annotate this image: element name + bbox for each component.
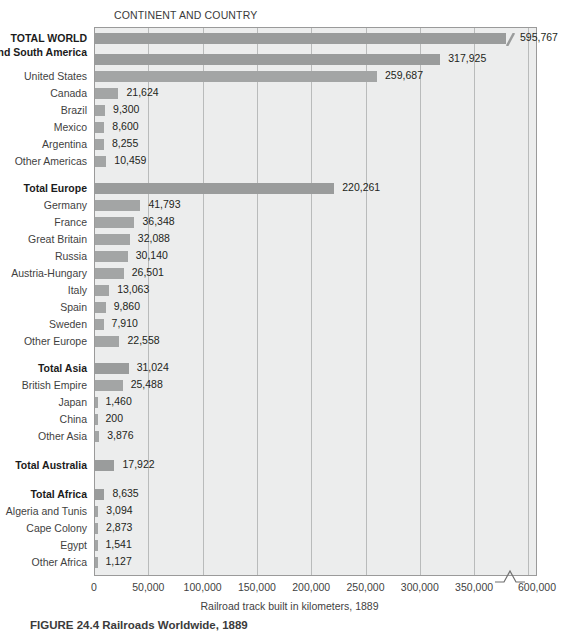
bar-value-label: 1,541 bbox=[102, 538, 132, 550]
bar: 21,624 bbox=[95, 88, 118, 99]
bar-value-label: 9,860 bbox=[110, 300, 140, 312]
bar-value-label: 259,687 bbox=[381, 69, 423, 81]
category-label: Japan bbox=[0, 397, 87, 408]
chart-plot-area: 595,767317,925259,68721,6249,3008,6008,2… bbox=[94, 27, 537, 576]
category-label: Other Europe bbox=[0, 336, 87, 347]
bar-value-label: 41,793 bbox=[144, 198, 180, 210]
bar: 41,793 bbox=[95, 200, 140, 211]
bar-value-label: 22,558 bbox=[123, 334, 159, 346]
category-label: Egypt bbox=[0, 540, 87, 551]
bar-value-label: 9,300 bbox=[109, 103, 139, 115]
category-label: Total Africa bbox=[0, 489, 87, 500]
bar: 8,635 bbox=[95, 489, 104, 500]
category-label: United States bbox=[0, 71, 87, 82]
bar-value-label: 317,925 bbox=[444, 52, 486, 64]
bar-value-label: 1,460 bbox=[102, 395, 132, 407]
bar: 1,127 bbox=[95, 557, 98, 568]
bar: 317,925 bbox=[95, 54, 440, 65]
bar-value-label: 25,488 bbox=[127, 378, 163, 390]
bar: 9,860 bbox=[95, 302, 106, 313]
bar-value-label: 2,873 bbox=[102, 521, 132, 533]
bar: 3,094 bbox=[95, 506, 98, 517]
x-tick-label: 50,000 bbox=[132, 581, 164, 593]
bar: 36,348 bbox=[95, 217, 134, 228]
category-label: Mexico bbox=[0, 122, 87, 133]
bar: 32,088 bbox=[95, 234, 130, 245]
bar: 8,255 bbox=[95, 139, 104, 150]
bar: 10,459 bbox=[95, 156, 106, 167]
category-label: Other Americas bbox=[0, 156, 87, 167]
category-label: Germany bbox=[0, 200, 87, 211]
bar-value-label: 8,635 bbox=[108, 487, 138, 499]
bar: 200 bbox=[95, 414, 98, 425]
gridline bbox=[311, 28, 312, 575]
gridline bbox=[148, 28, 149, 575]
bar-value-label: 595,767 bbox=[516, 31, 558, 43]
category-label: Total Europe bbox=[0, 183, 87, 194]
bar-value-label: 3,094 bbox=[102, 504, 132, 516]
bar-value-label: 17,922 bbox=[118, 458, 154, 470]
bar-value-label: 32,088 bbox=[134, 232, 170, 244]
category-label: Italy bbox=[0, 285, 87, 296]
category-label: Russia bbox=[0, 251, 87, 262]
x-tick-label: 300,000 bbox=[401, 581, 439, 593]
x-tick-label: 0 bbox=[91, 581, 97, 593]
bar: 595,767 bbox=[95, 33, 506, 44]
bar-value-label: 8,255 bbox=[108, 137, 138, 149]
axis-break-icon bbox=[495, 569, 525, 583]
bar: 25,488 bbox=[95, 380, 123, 391]
category-label: Total Asia bbox=[0, 363, 87, 374]
category-label: China bbox=[0, 414, 87, 425]
category-label: Other Asia bbox=[0, 431, 87, 442]
category-label: Canada bbox=[0, 88, 87, 99]
gridline bbox=[366, 28, 367, 575]
bar-value-label: 36,348 bbox=[138, 215, 174, 227]
x-tick-label: 100,000 bbox=[184, 581, 222, 593]
bar: 30,140 bbox=[95, 251, 128, 262]
bar-value-label: 30,140 bbox=[132, 249, 168, 261]
category-label: Algeria and Tunis bbox=[0, 506, 87, 517]
category-label: Spain bbox=[0, 302, 87, 313]
bar: 7,910 bbox=[95, 319, 104, 330]
category-label: British Empire bbox=[0, 380, 87, 391]
category-label: TOTAL WORLD bbox=[0, 33, 87, 44]
gridline bbox=[474, 28, 475, 575]
gridline bbox=[420, 28, 421, 575]
bar: 2,873 bbox=[95, 523, 98, 534]
bar-value-label: 220,261 bbox=[338, 181, 380, 193]
category-label: Cape Colony bbox=[0, 523, 87, 534]
category-label: Total North and South America bbox=[0, 47, 87, 59]
bar: 3,876 bbox=[95, 431, 99, 442]
x-tick-label: 150,000 bbox=[238, 581, 276, 593]
bar-value-label: 8,600 bbox=[108, 120, 138, 132]
x-tick-label: 200,000 bbox=[292, 581, 330, 593]
bar: 9,300 bbox=[95, 105, 105, 116]
bar: 1,541 bbox=[95, 540, 98, 551]
category-label: Argentina bbox=[0, 139, 87, 150]
bar: 8,600 bbox=[95, 122, 104, 133]
bar: 220,261 bbox=[95, 183, 334, 194]
gridline bbox=[257, 28, 258, 575]
category-label: France bbox=[0, 217, 87, 228]
bar-value-label: 21,624 bbox=[122, 86, 158, 98]
gridline bbox=[528, 28, 529, 575]
bar: 26,501 bbox=[95, 268, 124, 279]
bar-value-label: 1,127 bbox=[102, 555, 132, 567]
category-label: Other Africa bbox=[0, 557, 87, 568]
bar: 259,687 bbox=[95, 71, 377, 82]
bar-value-label: 13,063 bbox=[113, 283, 149, 295]
bar-value-label: 3,876 bbox=[103, 429, 133, 441]
category-label: Total Australia bbox=[0, 460, 87, 471]
bar: 17,922 bbox=[95, 460, 114, 471]
bar-value-label: 7,910 bbox=[108, 317, 138, 329]
category-label: Austria-Hungary bbox=[0, 268, 87, 279]
bar: 22,558 bbox=[95, 336, 119, 347]
bar: 31,024 bbox=[95, 363, 129, 374]
category-label: Brazil bbox=[0, 105, 87, 116]
category-label: Sweden bbox=[0, 319, 87, 330]
bar-value-label: 31,024 bbox=[133, 361, 169, 373]
figure-caption: FIGURE 24.4 Railroads Worldwide, 1889 bbox=[30, 619, 248, 631]
category-label: Great Britain bbox=[0, 234, 87, 245]
bar-value-label: 26,501 bbox=[128, 266, 164, 278]
